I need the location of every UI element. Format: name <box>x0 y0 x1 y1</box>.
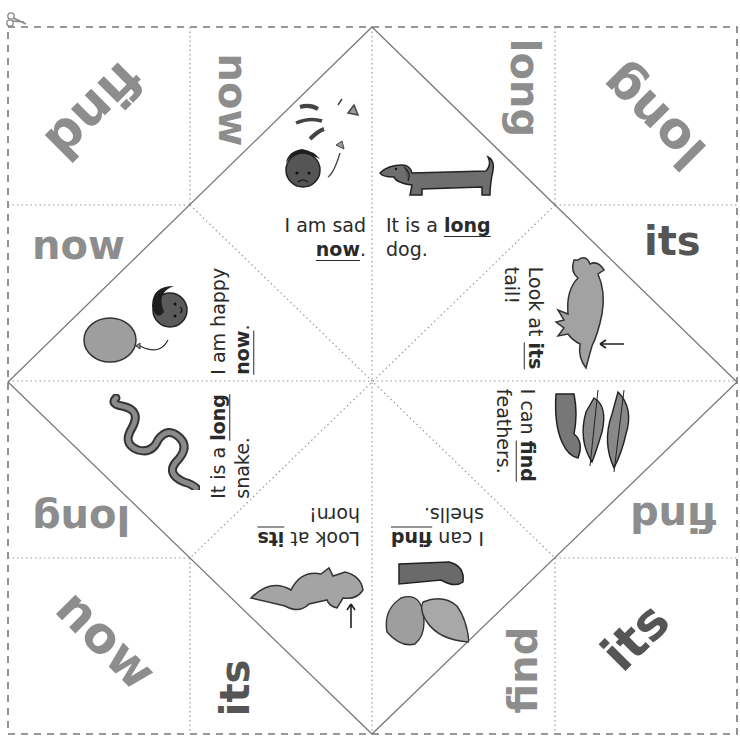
flap-word-find-right-bottom: find <box>630 497 717 537</box>
sentence-horn: Look at its horn! <box>260 502 360 550</box>
sentence-suffix: snake. <box>231 437 253 499</box>
keyword-now: now <box>231 331 253 375</box>
keyword-find: find <box>517 441 539 482</box>
sad-boy-icon <box>278 95 368 207</box>
sentence-suffix: . <box>360 238 366 260</box>
flap-word-find-bottom-right-side: find <box>503 627 543 714</box>
sentence-suffix: feathers. <box>493 389 515 474</box>
dachshund-icon <box>376 153 500 201</box>
sentence-suffix: . <box>231 325 253 331</box>
sentence-happy: I am happy now. <box>207 265 255 375</box>
triceratops-horn-icon <box>247 558 367 630</box>
sentence-suffix: tail! <box>501 267 523 304</box>
dinosaur-tail-icon <box>548 252 626 370</box>
flap-word-now-top-left-side: now <box>213 54 253 147</box>
keyword-its: its <box>525 342 547 369</box>
flap-word-find-top-left: find <box>36 53 153 170</box>
sentence-sad: I am sad now. <box>268 214 366 262</box>
sentence-prefix: Look at <box>290 528 360 550</box>
hand-shells-icon <box>383 560 469 650</box>
sentence-feathers: I can find feathers. <box>491 389 539 499</box>
sentence-prefix: I can <box>517 389 539 435</box>
keyword-now: now <box>316 238 360 260</box>
sentence-prefix: It is a <box>207 447 229 499</box>
keyword-long: long <box>207 394 229 441</box>
sentence-shells: I can find shells. <box>384 502 484 550</box>
flap-word-its-bottom-left-side: its <box>215 660 255 717</box>
sentence-prefix: Look at <box>525 267 547 337</box>
flap-word-long-top-right: long <box>592 56 714 178</box>
keyword-long: long <box>444 214 491 236</box>
flap-word-long-top-right-side: long <box>505 39 545 137</box>
keyword-find: find <box>391 528 432 550</box>
sentence-suffix: horn! <box>309 504 360 526</box>
scissors-icon <box>4 10 28 30</box>
sentence-prefix: I am happy <box>207 268 229 375</box>
hand-feathers-icon <box>552 388 638 472</box>
sentence-tail: Look at its tail! <box>499 267 547 377</box>
flap-word-now-left-top: now <box>32 225 125 265</box>
flap-word-now-bottom-left: now <box>47 581 164 698</box>
sentence-suffix: shells. <box>424 504 484 526</box>
sentence-prefix: It is a <box>386 214 438 236</box>
happy-boy-balloon-icon <box>80 282 200 368</box>
flap-word-its-right-top: its <box>644 221 701 261</box>
sentence-dog: It is a long dog. <box>386 214 491 262</box>
flap-word-long-left-bottom: long <box>32 500 130 540</box>
fortune-teller-sheet: find now now long long its long now its … <box>0 0 740 739</box>
snake-icon <box>104 394 200 490</box>
sentence-prefix: I am sad <box>285 214 366 236</box>
sentence-snake: It is a long snake. <box>207 389 255 499</box>
sentence-prefix: I can <box>438 528 484 550</box>
flap-word-its-bottom-right: its <box>593 594 678 679</box>
keyword-its: its <box>257 528 284 550</box>
sentence-suffix: dog. <box>386 238 428 260</box>
